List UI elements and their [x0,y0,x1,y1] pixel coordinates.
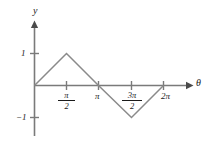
y-axis-label: y [33,6,37,16]
x-tick-label-2pi: 2π [161,92,170,101]
x-tick-label-pi-over-2-denominator: 2 [58,102,75,111]
y-axis-arrowhead-icon [31,21,38,29]
y-tick-label-1: 1 [21,49,26,58]
y-tick-label-neg1: −1 [16,113,27,122]
plot-canvas [0,0,216,142]
x-axis-arrowhead-icon [186,82,194,89]
x-tick-label-3pi-over-2-denominator: 2 [122,102,142,111]
x-tick-label-pi: π [95,92,100,101]
x-tick-label-pi-over-2: π 2 [58,91,75,111]
x-axis-label: θ [196,78,201,88]
x-tick-label-3pi-over-2: 3π 2 [122,91,142,111]
x-tick-label-pi-over-2-numerator: π [58,91,75,100]
x-tick-label-3pi-over-2-numerator: 3π [122,91,142,100]
triangle-wave-figure: y θ 1 −1 π 2 π 3π 2 2π [0,0,216,142]
